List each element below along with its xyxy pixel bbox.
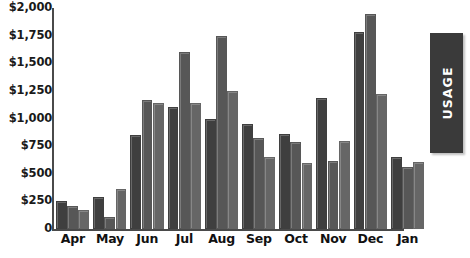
chart-screenshot: 0$250$500$750$1,000$1,250$1,500$1,750$2,… xyxy=(0,0,470,258)
bar xyxy=(264,157,275,229)
bar xyxy=(290,142,301,229)
bar xyxy=(302,163,313,229)
bar xyxy=(413,162,424,229)
bar xyxy=(153,103,164,229)
y-tick-label: $1,250 xyxy=(0,85,52,97)
bar xyxy=(93,197,104,229)
bar xyxy=(365,14,376,229)
usage-side-tab[interactable]: USAGE xyxy=(430,33,463,153)
usage-side-tab-label: USAGE xyxy=(439,66,454,119)
y-tick-label: $750 xyxy=(0,140,52,152)
bar xyxy=(279,134,290,229)
bar xyxy=(253,138,264,229)
x-axis-tick-labels: AprMayJunJulAugSepOctNovDecJan xyxy=(0,232,415,256)
bar xyxy=(242,124,253,229)
y-tick-label: $1,500 xyxy=(0,57,52,69)
bar xyxy=(142,100,153,229)
bar xyxy=(376,94,387,229)
plot-area xyxy=(54,8,403,229)
bar xyxy=(67,206,78,229)
bar xyxy=(339,141,350,229)
y-tick-label: $500 xyxy=(0,168,52,180)
bar xyxy=(190,103,201,229)
bar xyxy=(328,161,339,230)
bar xyxy=(402,167,413,229)
bar xyxy=(391,157,402,229)
y-tick-label: $1,750 xyxy=(0,30,52,42)
bar xyxy=(168,107,179,229)
bar xyxy=(130,135,141,229)
bar-chart: 0$250$500$750$1,000$1,250$1,500$1,750$2,… xyxy=(0,0,415,258)
y-tick-label: $250 xyxy=(0,195,52,207)
bar xyxy=(56,201,67,229)
bar xyxy=(78,210,89,229)
y-tick-label: $1,000 xyxy=(0,113,52,125)
bar xyxy=(104,217,115,229)
bar xyxy=(216,36,227,229)
bar xyxy=(227,91,238,229)
y-tick-label: $2,000 xyxy=(0,2,52,14)
bar xyxy=(205,119,216,230)
bar xyxy=(179,52,190,229)
bar xyxy=(316,98,327,229)
bars-layer xyxy=(54,8,403,229)
bar xyxy=(354,32,365,229)
bar xyxy=(116,189,127,229)
x-tick-label: Jan xyxy=(386,232,430,246)
